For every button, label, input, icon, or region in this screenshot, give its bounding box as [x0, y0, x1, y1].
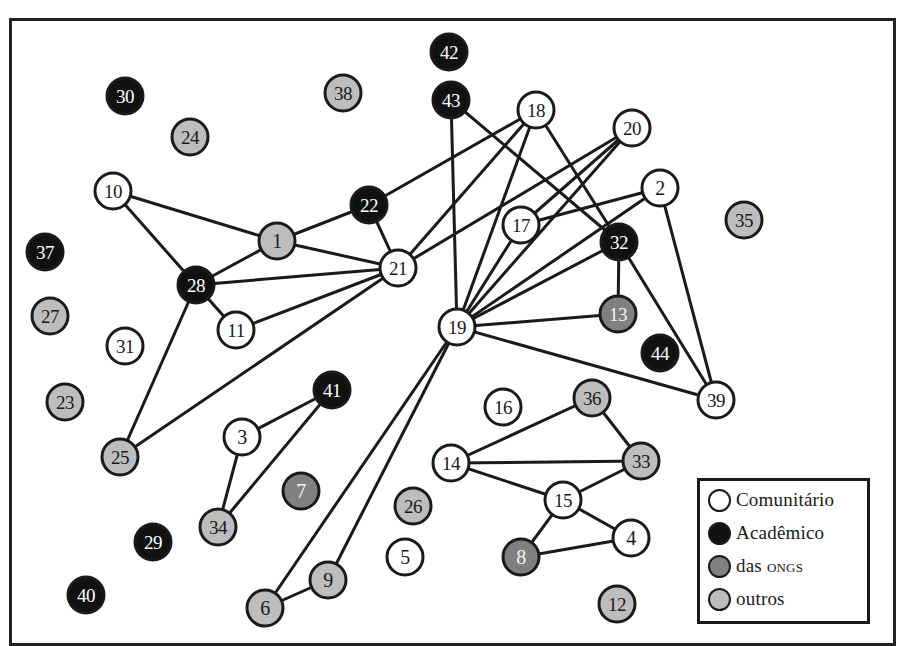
node-label: 41: [323, 380, 341, 401]
edge-19-6: [265, 327, 457, 608]
node-19: 19: [439, 309, 475, 345]
node-36: 36: [574, 380, 610, 416]
node-8: 8: [503, 539, 539, 575]
edge-11-21: [236, 268, 398, 330]
node-label: 33: [632, 451, 650, 472]
node-label: 38: [334, 83, 352, 104]
edge-10-1: [113, 191, 277, 241]
node-23: 23: [47, 384, 83, 420]
node-label: 3: [237, 426, 247, 448]
node-24: 24: [172, 119, 208, 155]
node-11: 11: [218, 312, 254, 348]
node-label: 25: [111, 447, 129, 468]
node-35: 35: [726, 202, 762, 238]
node-label: 10: [104, 181, 122, 202]
node-label: 28: [187, 275, 205, 296]
node-31: 31: [107, 328, 143, 364]
node-label: 12: [608, 594, 626, 615]
node-label: 43: [442, 90, 460, 111]
node-label: 15: [554, 490, 572, 511]
node-40: 40: [68, 577, 104, 613]
node-18: 18: [518, 92, 554, 128]
node-7: 7: [283, 473, 319, 509]
node-label: 42: [440, 42, 458, 63]
node-label: 35: [735, 210, 753, 231]
node-14: 14: [433, 445, 469, 481]
node-label: 8: [516, 546, 526, 568]
node-label: 18: [527, 100, 545, 121]
node-28: 28: [178, 267, 214, 303]
node-label: 27: [41, 306, 59, 327]
node-44: 44: [642, 335, 678, 371]
node-label: 1: [272, 230, 282, 252]
edge-28-21: [196, 268, 398, 285]
white-circle-icon: [708, 489, 731, 512]
node-41: 41: [314, 372, 350, 408]
nodes-layer: 1234567891011121314151617181920212223242…: [27, 34, 762, 626]
node-label: 17: [512, 215, 530, 236]
legend-item-ongs: das ongs: [708, 551, 803, 581]
black-circle-icon: [708, 522, 731, 545]
node-10: 10: [95, 173, 131, 209]
edge-21-20: [398, 128, 632, 268]
node-label: 26: [404, 496, 422, 517]
node-30: 30: [107, 78, 143, 114]
legend-item-academico: Acadêmico: [708, 518, 824, 548]
node-37: 37: [27, 234, 63, 270]
node-label: 22: [360, 195, 378, 216]
node-label: 37: [36, 242, 54, 263]
node-label: 11: [227, 320, 244, 341]
node-39: 39: [698, 382, 734, 418]
node-20: 20: [614, 110, 650, 146]
node-label: 4: [626, 527, 636, 549]
node-label: 34: [209, 517, 228, 538]
node-34: 34: [200, 509, 236, 545]
node-26: 26: [395, 488, 431, 524]
node-13: 13: [600, 296, 636, 332]
node-label: 31: [116, 336, 134, 357]
edge-14-33: [451, 461, 641, 463]
network-diagram: 1234567891011121314151617181920212223242…: [0, 0, 904, 646]
node-21: 21: [380, 250, 416, 286]
node-27: 27: [32, 298, 68, 334]
node-label: 39: [707, 390, 725, 411]
node-22: 22: [351, 187, 387, 223]
node-label: 30: [116, 86, 134, 107]
node-label: 6: [260, 597, 270, 619]
node-32: 32: [601, 224, 637, 260]
node-2: 2: [642, 170, 678, 206]
node-15: 15: [545, 482, 581, 518]
legend-label: das ongs: [736, 555, 803, 577]
node-label: 2: [655, 177, 665, 199]
node-12: 12: [599, 586, 635, 622]
legend-label: Acadêmico: [736, 522, 824, 544]
legend: Comunitário Acadêmico das ongs outros: [697, 478, 870, 624]
node-25: 25: [102, 439, 138, 475]
node-label: 24: [181, 127, 200, 148]
node-9: 9: [310, 562, 346, 598]
node-label: 16: [494, 397, 512, 418]
node-label: 19: [448, 317, 466, 338]
node-label: 14: [442, 453, 461, 474]
node-17: 17: [503, 207, 539, 243]
node-label: 5: [400, 546, 410, 568]
node-label: 44: [651, 343, 670, 364]
edge-20-19: [457, 128, 632, 327]
node-label: 21: [389, 258, 407, 279]
node-label: 13: [609, 304, 627, 325]
legend-item-outros: outros: [708, 584, 785, 614]
node-label: 20: [623, 118, 641, 139]
node-38: 38: [325, 75, 361, 111]
node-3: 3: [224, 419, 260, 455]
node-1: 1: [259, 223, 295, 259]
light-gray-circle-icon: [708, 588, 731, 611]
node-5: 5: [387, 539, 423, 575]
node-label: 7: [296, 480, 306, 502]
node-33: 33: [623, 443, 659, 479]
edge-32-19: [457, 242, 619, 327]
node-42: 42: [431, 34, 467, 70]
edge-21-18: [398, 110, 536, 268]
node-29: 29: [135, 524, 171, 560]
node-43: 43: [433, 82, 469, 118]
legend-item-comunitario: Comunitário: [708, 485, 834, 515]
